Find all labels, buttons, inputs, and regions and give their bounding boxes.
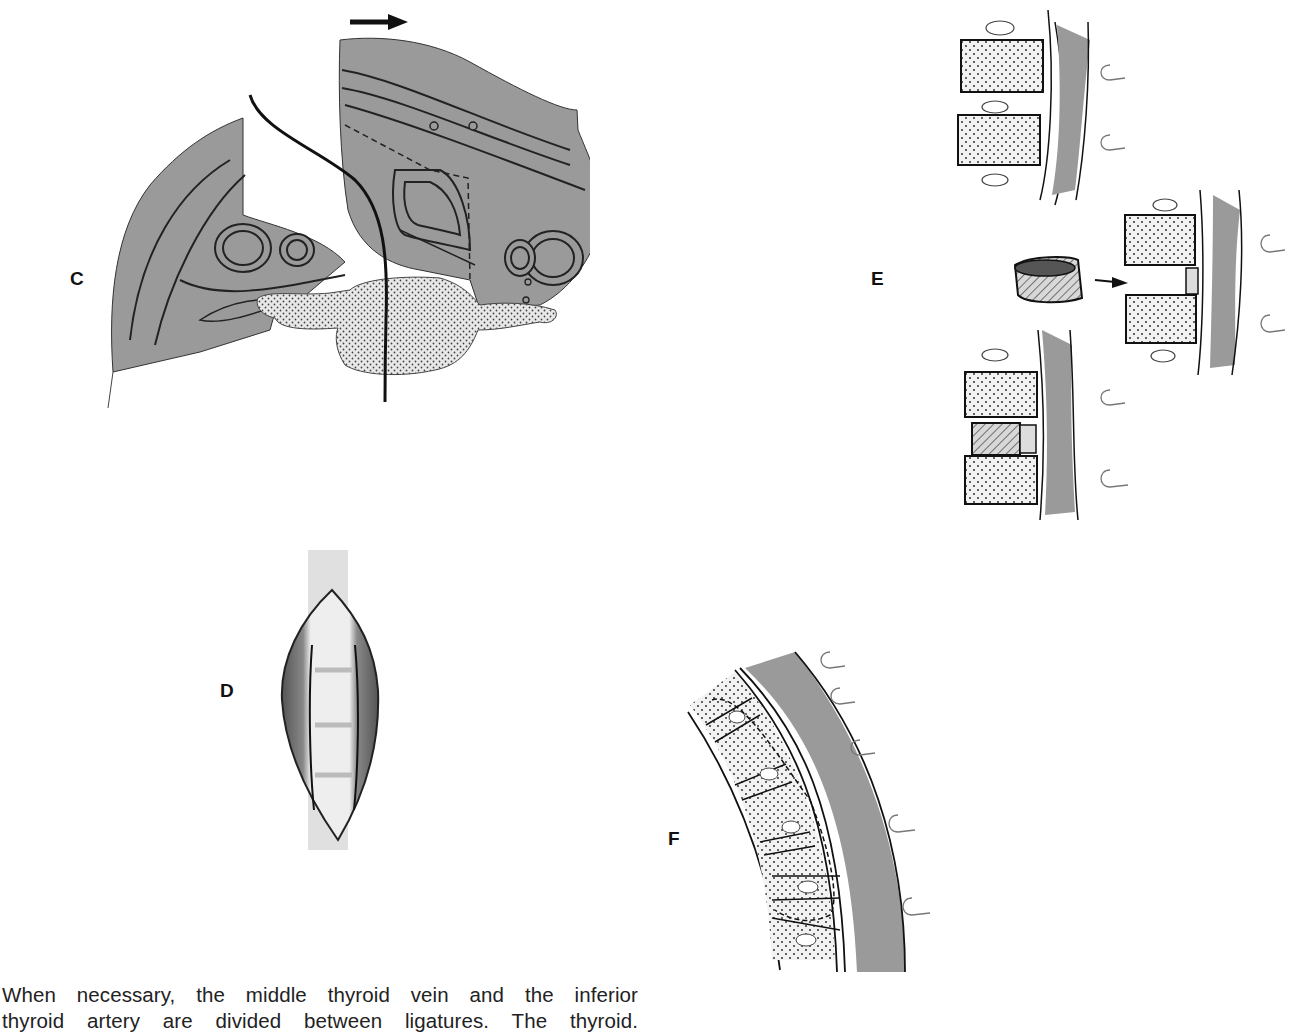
panel-label-d: D [220,680,234,702]
panel-e-illustration [950,0,1295,530]
panel-d-illustration [270,550,390,850]
caption-text: When necessary, the middle thyroid vein … [2,982,638,1032]
panel-label-c: C [70,268,84,290]
panel-label-f: F [668,828,680,850]
caption-line-2: thyroid artery are divided between ligat… [2,1008,638,1032]
arrow-right-icon [350,14,408,30]
panel-label-e: E [871,268,884,290]
caption-line-1: When necessary, the middle thyroid vein … [2,982,638,1008]
panel-f-illustration [680,640,960,980]
bone-graft-icon [1015,257,1082,302]
panel-c-illustration [90,0,590,410]
arrow-right-icon [1095,277,1128,288]
